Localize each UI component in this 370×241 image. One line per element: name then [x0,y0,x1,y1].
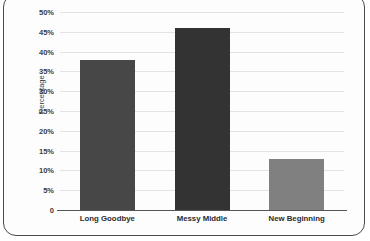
bar-long-goodbye[interactable] [80,60,135,210]
y-axis-tick-label: 45% [39,27,54,36]
y-axis-tick-label: 50% [39,8,54,17]
x-axis-category-label: Long Goodbye [80,214,135,223]
y-axis-tick-label: 5% [43,186,54,195]
x-axis-category-label: New Beginning [269,214,325,223]
y-axis-tick-label: 15% [39,146,54,155]
y-axis-tick-label: 25% [39,107,54,116]
y-axis-tick-label: 40% [39,47,54,56]
chart-title [4,0,364,2]
y-axis-tick-label: 35% [39,67,54,76]
y-axis-tick-label: 30% [39,87,54,96]
x-axis-category-label: Messy Middle [177,214,228,223]
bar-new-beginning[interactable] [269,159,324,210]
chart-frame: Percentage 05%10%15%20%25%30%35%40%45%50… [3,0,365,236]
x-axis-line [57,210,347,211]
y-axis-tick-label: 0 [50,206,54,215]
y-axis-tick-label: 10% [39,166,54,175]
plot-area: 05%10%15%20%25%30%35%40%45%50% Long Good… [60,12,344,210]
y-axis-tick-label: 20% [39,126,54,135]
gridline [60,12,344,13]
bar-messy-middle[interactable] [175,28,230,210]
